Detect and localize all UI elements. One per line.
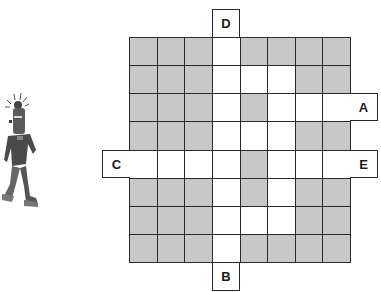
shaded-cell (323, 207, 351, 235)
open-cell (130, 151, 158, 179)
open-cell (268, 122, 296, 150)
shaded-cell (296, 207, 324, 235)
shaded-cell (323, 66, 351, 94)
exit-label-d: D (212, 9, 240, 37)
open-cell (268, 179, 296, 207)
open-cell (268, 94, 296, 122)
shaded-cell (268, 235, 296, 263)
exit-label-b: B (212, 263, 240, 291)
shaded-cell (158, 207, 186, 235)
shaded-cell (241, 94, 269, 122)
exit-label-e: E (350, 150, 378, 178)
open-cell (241, 122, 269, 150)
shaded-cell (185, 66, 213, 94)
shaded-cell (158, 94, 186, 122)
open-cell (296, 151, 324, 179)
shaded-cell (241, 179, 269, 207)
shaded-cell (296, 38, 324, 66)
exit-label-a: A (350, 93, 378, 121)
shaded-cell (130, 38, 158, 66)
shaded-cell (296, 179, 324, 207)
open-cell (213, 38, 241, 66)
shaded-cell (185, 122, 213, 150)
open-cell (268, 151, 296, 179)
shaded-cell (323, 179, 351, 207)
open-cell (213, 94, 241, 122)
shaded-cell (268, 38, 296, 66)
shaded-cell (158, 38, 186, 66)
open-cell (213, 151, 241, 179)
shaded-cell (241, 38, 269, 66)
shaded-cell (296, 235, 324, 263)
open-cell (323, 94, 351, 122)
shaded-cell (241, 151, 269, 179)
open-cell (213, 207, 241, 235)
shaded-cell (130, 235, 158, 263)
puzzle-grid (129, 37, 351, 263)
shaded-cell (130, 207, 158, 235)
shaded-cell (158, 235, 186, 263)
shaded-cell (130, 179, 158, 207)
robot-figure-icon (0, 92, 40, 212)
shaded-cell (130, 66, 158, 94)
shaded-cell (296, 122, 324, 150)
open-cell (185, 151, 213, 179)
shaded-cell (185, 94, 213, 122)
open-cell (213, 235, 241, 263)
shaded-cell (185, 179, 213, 207)
open-cell (213, 66, 241, 94)
open-cell (213, 179, 241, 207)
exit-label-c: C (102, 150, 130, 178)
shaded-cell (185, 207, 213, 235)
shaded-cell (323, 38, 351, 66)
shaded-cell (296, 66, 324, 94)
open-cell (268, 66, 296, 94)
open-cell (158, 151, 186, 179)
shaded-cell (185, 235, 213, 263)
shaded-cell (323, 235, 351, 263)
open-cell (296, 94, 324, 122)
open-cell (213, 122, 241, 150)
shaded-cell (158, 66, 186, 94)
shaded-cell (130, 94, 158, 122)
open-cell (241, 207, 269, 235)
shaded-cell (158, 179, 186, 207)
shaded-cell (185, 38, 213, 66)
shaded-cell (323, 122, 351, 150)
shaded-cell (130, 122, 158, 150)
open-cell (323, 151, 351, 179)
open-cell (241, 66, 269, 94)
shaded-cell (158, 122, 186, 150)
open-cell (268, 207, 296, 235)
shaded-cell (241, 235, 269, 263)
